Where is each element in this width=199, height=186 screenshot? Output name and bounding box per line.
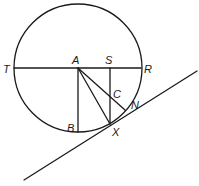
- label-C: C: [113, 88, 121, 100]
- label-S: S: [105, 54, 113, 66]
- segment-AX: [78, 68, 110, 124]
- label-R: R: [144, 63, 152, 75]
- label-T: T: [3, 63, 11, 75]
- label-X: X: [111, 126, 120, 138]
- geometry-diagram: T A S R C N B X: [0, 0, 199, 186]
- label-N: N: [131, 99, 139, 111]
- label-A: A: [71, 54, 79, 66]
- label-B: B: [67, 122, 74, 134]
